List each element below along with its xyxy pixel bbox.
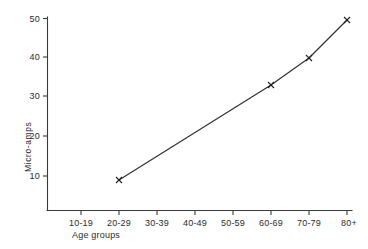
y-axis-ticks (43, 19, 48, 177)
x-tick-label-30-39: 30-39 (145, 218, 169, 228)
data-point-80-plus (344, 17, 350, 23)
series-markers (116, 17, 350, 183)
data-point-70-79 (306, 55, 312, 61)
line-chart: 50 40 30 20 10 Micro-amps 10-19 20-29 30… (0, 0, 368, 249)
y-axis-title: Micro-amps (23, 122, 33, 172)
x-tick-label-50-59: 50-59 (221, 218, 245, 228)
x-axis-tick-labels: 10-19 20-29 30-39 40-49 50-59 60-69 70-7… (69, 218, 357, 228)
x-tick-label-60-69: 60-69 (259, 218, 283, 228)
series-line-micro-amps (119, 20, 347, 180)
x-axis-ticks (81, 211, 347, 216)
x-tick-label-10-19: 10-19 (69, 218, 93, 228)
x-tick-label-70-79: 70-79 (297, 218, 321, 228)
x-tick-label-40-49: 40-49 (183, 218, 207, 228)
data-point-20-29 (116, 177, 122, 183)
y-tick-label-30: 30 (30, 91, 40, 101)
x-tick-label-80-plus: 80+ (341, 218, 357, 228)
chart-page: 50 40 30 20 10 Micro-amps 10-19 20-29 30… (0, 0, 368, 249)
data-point-60-69 (268, 82, 274, 88)
y-tick-label-40: 40 (30, 52, 40, 62)
x-tick-label-20-29: 20-29 (107, 218, 131, 228)
y-tick-label-50: 50 (30, 14, 40, 24)
x-axis-title: Age groups (72, 230, 120, 240)
